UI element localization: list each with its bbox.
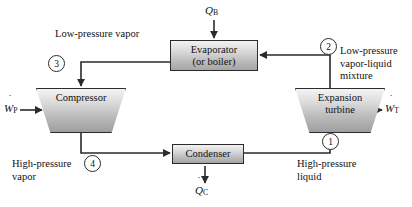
line-evaporator-to-compressor xyxy=(81,62,170,86)
annotation-high-pressure-vapor: High-pressure vapor xyxy=(12,158,71,183)
condenser-label: Condenser xyxy=(186,148,231,160)
state-point-1[interactable]: 1 xyxy=(322,133,339,150)
annotation-high-pressure-vapor-line2: vapor xyxy=(12,171,71,184)
annotation-low-pressure-mixture: Low-pressure vapor-liquid mixture xyxy=(340,45,412,83)
annotation-high-pressure-liquid-line2: liquid xyxy=(297,171,373,184)
annotation-low-pressure-mixture-line1: Low-pressure xyxy=(340,45,412,58)
work-input-symbol: W˙P xyxy=(4,102,17,115)
line-condenser-to-turbine xyxy=(244,134,330,153)
annotation-high-pressure-liquid: High-pressure liquid xyxy=(297,158,373,183)
heat-output-symbol: Q˙C xyxy=(195,184,208,197)
heat-input-symbol: Q˙B xyxy=(205,4,218,17)
heat-output-subscript: C xyxy=(203,188,208,197)
annotation-low-pressure-vapor: Low-pressure vapor xyxy=(55,28,139,41)
work-input-subscript: P xyxy=(13,106,17,115)
compressor-label-group: Compressor xyxy=(36,92,126,104)
component-evaporator[interactable]: Evaporator (or boiler) xyxy=(170,40,258,71)
annotation-low-pressure-mixture-line2: vapor-liquid xyxy=(340,58,412,71)
evaporator-label-line1: Evaporator xyxy=(191,44,238,56)
annotation-high-pressure-vapor-line1: High-pressure xyxy=(12,158,71,171)
heat-input-subscript: B xyxy=(213,8,218,17)
work-output-subscript: T xyxy=(394,106,399,115)
annotation-low-pressure-mixture-line3: mixture xyxy=(340,70,412,83)
compressor-label: Compressor xyxy=(36,92,126,104)
state-point-3[interactable]: 3 xyxy=(48,55,65,72)
turbine-label-group: Expansion turbine xyxy=(295,92,385,116)
state-point-2[interactable]: 2 xyxy=(320,38,337,55)
line-compressor-to-condenser xyxy=(81,133,170,153)
annotation-high-pressure-liquid-line1: High-pressure xyxy=(297,158,373,171)
evaporator-label-line2: (or boiler) xyxy=(193,56,236,68)
turbine-label-line2: turbine xyxy=(295,104,385,116)
component-condenser[interactable]: Condenser xyxy=(172,144,244,164)
turbine-label-line1: Expansion xyxy=(295,92,385,104)
cycle-diagram: Evaporator (or boiler) Condenser Compres… xyxy=(0,0,412,207)
work-output-symbol: W˙T xyxy=(385,102,399,115)
state-point-4[interactable]: 4 xyxy=(84,155,101,172)
